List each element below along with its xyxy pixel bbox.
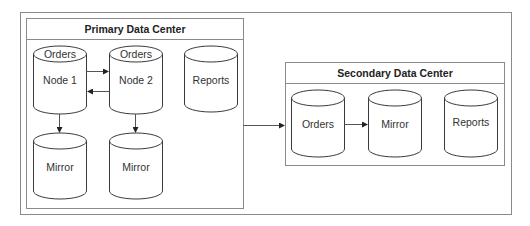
mirror1-label: Mirror [46,161,74,173]
primary-title: Primary Data Center [85,23,186,35]
cylinder-mirror1: Mirror [34,133,87,199]
secondary-reports-label: Reports [453,116,490,128]
node2-top-label: Orders [120,48,152,60]
cylinder-secondary-orders: Orders [292,90,345,157]
secondary-title: Secondary Data Center [337,67,453,79]
primary-data-center: Primary Data Center Orders Node 1 Orders… [27,19,244,209]
cylinder-mirror2: Mirror [110,133,163,199]
secondary-orders-label: Orders [302,118,334,130]
primary-reports-label: Reports [193,74,230,86]
cylinder-node1: Orders Node 1 [34,46,87,114]
secondary-data-center: Secondary Data Center Orders Mirror Repo… [286,63,505,166]
cylinder-node2: Orders Node 2 [110,46,163,114]
diagram-canvas: Primary Data Center Orders Node 1 Orders… [0,0,530,226]
node1-label: Node 1 [43,74,77,86]
secondary-mirror-label: Mirror [381,118,409,130]
node1-top-label: Orders [44,48,76,60]
cylinder-secondary-mirror: Mirror [369,90,422,157]
cylinder-primary-reports: Reports [185,46,238,112]
cylinder-secondary-reports: Reports [445,90,498,157]
mirror2-label: Mirror [122,161,150,173]
node2-label: Node 2 [119,74,153,86]
